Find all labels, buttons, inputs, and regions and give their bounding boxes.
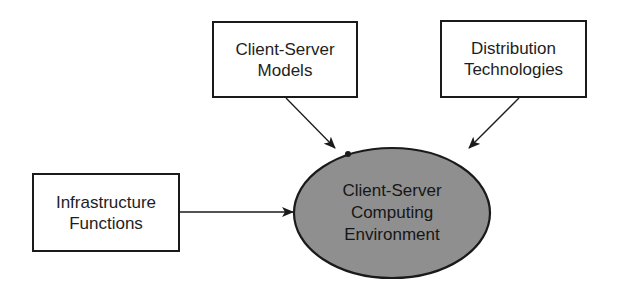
arrow-distribution-to-environment — [469, 98, 519, 148]
arrow-models-to-environment — [286, 98, 335, 148]
client-server-models-box: Client-Server Models — [212, 21, 358, 98]
node-label-line: Computing — [351, 202, 433, 224]
ink-blot — [345, 151, 351, 157]
node-label-line: Environment — [344, 224, 439, 246]
node-label-line: Client-Server — [235, 39, 334, 60]
node-label-line: Functions — [69, 213, 143, 234]
node-label-line: Client-Server — [342, 180, 441, 202]
infrastructure-functions-box: Infrastructure Functions — [32, 173, 180, 252]
node-label-line: Models — [258, 60, 313, 81]
node-label-line: Infrastructure — [56, 192, 156, 213]
computing-environment-label: Client-Server Computing Environment — [312, 170, 472, 256]
node-label-line: Distribution — [471, 38, 556, 59]
node-label-line: Technologies — [464, 59, 563, 80]
distribution-technologies-box: Distribution Technologies — [440, 20, 587, 98]
